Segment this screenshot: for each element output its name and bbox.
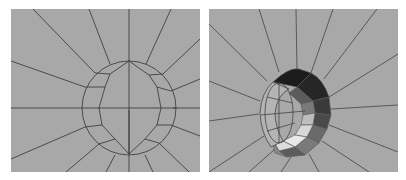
mesh-panel-flat [11,9,200,172]
mesh-panel-extruded [209,9,398,172]
extruded-mesh-graphic [209,9,398,172]
flat-mesh-graphic [11,9,200,172]
